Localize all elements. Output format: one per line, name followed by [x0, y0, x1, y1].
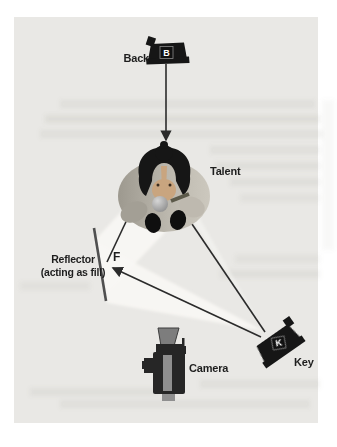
fill-letter: F [113, 250, 120, 264]
reflector-label-line1: Reflector [51, 253, 95, 265]
key-light-label: Key [294, 356, 315, 368]
talent-label: Talent [210, 165, 241, 177]
camera-label: Camera [189, 362, 229, 374]
reflector-label-line2: (acting as fill) [41, 266, 105, 278]
back-light-label: Back [124, 52, 151, 64]
talent-microphone [152, 196, 168, 212]
back-letter: B [163, 48, 170, 58]
talent-hair-bun [160, 141, 168, 149]
book-page: B K Back Talent Reflector (acting as fil… [0, 0, 337, 447]
lighting-diagram: B K Back Talent Reflector (acting as fil… [0, 0, 337, 447]
